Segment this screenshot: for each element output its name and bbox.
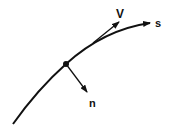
label-path-s: s [155,17,161,29]
label-velocity: V [116,7,124,21]
point-marker [63,61,69,67]
diagram-canvas: V s n [0,0,171,126]
normal-vector-arrow [66,64,87,92]
path-curve-s [13,23,150,124]
label-normal-n: n [89,97,96,109]
